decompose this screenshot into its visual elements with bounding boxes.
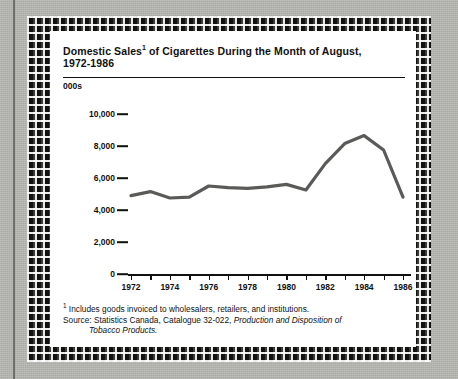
page-margin-rule — [13, 0, 15, 379]
source-prefix: Source: Statistics Canada, Catalogue 32-… — [63, 315, 234, 325]
source-publication-title: Production and Disposition of — [234, 315, 342, 325]
data-line-series — [51, 32, 415, 346]
footnote-source: Source: Statistics Canada, Catalogue 32-… — [63, 315, 405, 336]
footnote-includes: 1 Includes goods invoiced to wholesalers… — [63, 301, 405, 314]
source-publication-title-cont: Tobacco Products. — [63, 325, 405, 336]
line-chart-plot: 02,0004,0006,0008,00010,000 197219741976… — [51, 32, 415, 346]
footnote-text: Includes goods invoiced to wholesalers, … — [67, 304, 310, 314]
figure-container: Domestic Sales1 of Cigarettes During the… — [27, 16, 431, 362]
figure-footnotes: 1 Includes goods invoiced to wholesalers… — [63, 301, 405, 336]
figure-inner-panel: Domestic Sales1 of Cigarettes During the… — [51, 32, 415, 346]
page-canvas: Domestic Sales1 of Cigarettes During the… — [0, 0, 458, 379]
